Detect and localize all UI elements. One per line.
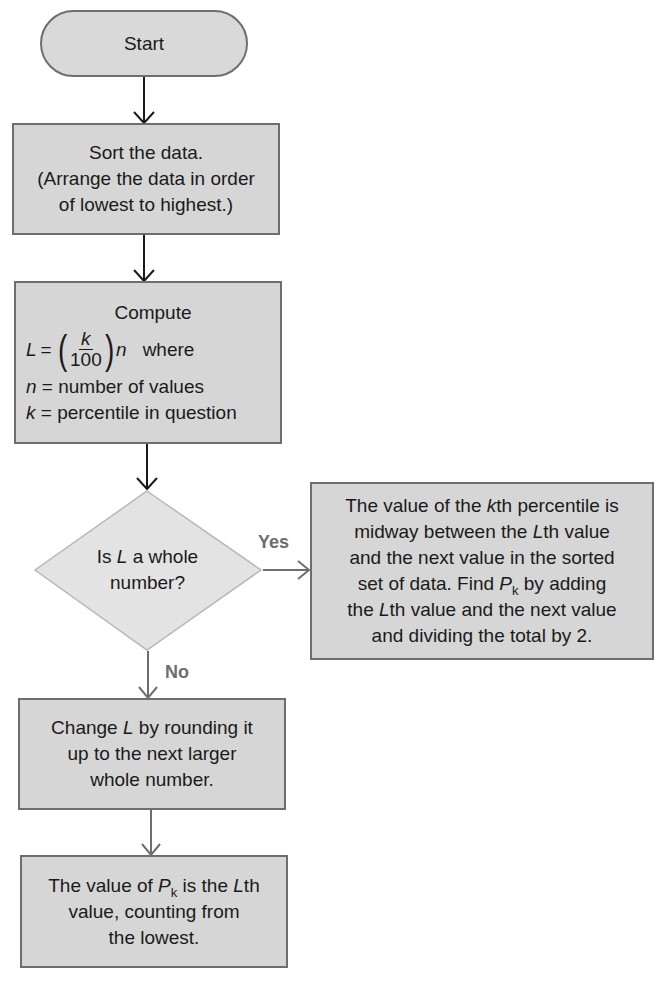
- round-up-step: Change L by rounding it up to the next l…: [18, 698, 286, 810]
- start-terminal: Start: [40, 10, 248, 77]
- midway-result-box: The value of the kth percentile is midwa…: [310, 482, 654, 660]
- formula-where: where: [143, 337, 195, 363]
- formula-n: n: [116, 337, 127, 363]
- compute-heading: Compute: [26, 300, 280, 326]
- fraction: k 100: [70, 329, 102, 370]
- definition-n: n = number of values: [26, 374, 280, 400]
- fraction-denominator: 100: [70, 350, 102, 370]
- definition-k: k = percentile in question: [26, 400, 280, 426]
- start-label: Start: [124, 31, 164, 57]
- percentile-location-formula: L = ( k 100 ) n where: [26, 326, 280, 374]
- sort-line-3: of lowest to highest.): [59, 192, 233, 218]
- compute-step: Compute L = ( k 100 ) n where n = number…: [14, 281, 282, 444]
- sort-line-2: (Arrange the data in order: [37, 166, 255, 192]
- decision-question: Is L a whole number?: [60, 544, 235, 596]
- lth-value-result-box: The value of Pk is the Lth value, counti…: [20, 855, 288, 968]
- formula-L: L: [26, 337, 37, 363]
- left-paren: (: [58, 330, 67, 370]
- yes-label: Yes: [258, 532, 289, 553]
- sort-step: Sort the data. (Arrange the data in orde…: [12, 123, 280, 235]
- sort-line-1: Sort the data.: [89, 140, 203, 166]
- formula-equals: =: [41, 337, 52, 363]
- no-label: No: [165, 662, 189, 683]
- fraction-numerator: k: [79, 329, 93, 350]
- right-paren: ): [105, 330, 114, 370]
